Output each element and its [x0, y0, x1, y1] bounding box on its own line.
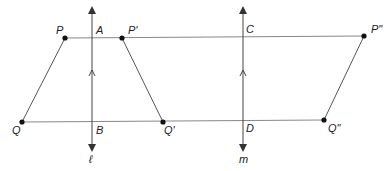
label-line-m: m	[239, 153, 248, 165]
label-p-double-prime: P"	[371, 23, 383, 35]
diagram-canvas: P P' P" Q Q' Q" A B C D ℓ m	[0, 0, 389, 171]
label-q-prime: Q'	[164, 124, 176, 136]
label-p: P	[56, 24, 64, 36]
point-p-prime	[119, 35, 124, 40]
line-qq-double	[22, 120, 324, 122]
segment-pq	[22, 38, 65, 122]
point-p-double-prime	[361, 33, 366, 38]
segment-p-dprime-q-dprime	[324, 36, 364, 120]
point-q-double-prime	[321, 117, 326, 122]
label-d: D	[246, 122, 254, 134]
label-b: B	[96, 124, 103, 136]
label-p-prime: P'	[128, 24, 138, 36]
point-p	[62, 35, 67, 40]
label-q-double-prime: Q"	[328, 122, 342, 134]
line-pp-double	[65, 36, 364, 38]
diagram-svg: P P' P" Q Q' Q" A B C D ℓ m	[0, 0, 389, 171]
label-c: C	[246, 23, 254, 35]
segment-p-prime-q-prime	[122, 38, 163, 122]
label-a: A	[95, 24, 103, 36]
label-q: Q	[12, 124, 21, 136]
line-l	[89, 10, 95, 148]
label-line-l: ℓ	[88, 153, 93, 165]
